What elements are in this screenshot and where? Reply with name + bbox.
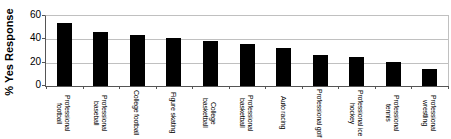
- x-axis-label: Professional tennis: [384, 88, 400, 138]
- bar-slot: [338, 16, 375, 86]
- x-axis-label: Auto racing: [279, 88, 287, 138]
- x-label-slot: Professional tennis: [374, 88, 411, 139]
- bar-slot: [156, 16, 193, 86]
- bar-slot: [83, 16, 120, 86]
- bar-slot: [229, 16, 266, 86]
- x-tick-mark: [448, 86, 449, 89]
- bar: [240, 44, 255, 86]
- bar: [313, 55, 328, 87]
- bar: [130, 35, 145, 86]
- x-axis-label: Figure skating: [169, 88, 177, 138]
- y-axis-ticks: 0204060: [0, 0, 41, 139]
- x-label-slot: College basketball: [191, 88, 228, 139]
- x-axis-label: College basketball: [201, 88, 217, 138]
- x-axis-label: Professional ice hockey: [348, 88, 364, 138]
- bar-slot: [375, 16, 412, 86]
- plot-area: [45, 15, 449, 87]
- x-label-slot: Figure skating: [155, 88, 192, 139]
- x-axis-label: Professional golf: [315, 88, 323, 138]
- bar: [349, 57, 364, 86]
- bar-slot: [119, 16, 156, 86]
- y-tick-label: 20: [0, 57, 41, 67]
- x-label-slot: Professional golf: [301, 88, 338, 139]
- x-label-slot: College football: [118, 88, 155, 139]
- x-axis-label: Professional baseball: [92, 88, 108, 138]
- bar: [386, 62, 401, 87]
- bar-slot: [46, 16, 83, 86]
- bar: [166, 38, 181, 86]
- y-tick-label: 0: [0, 80, 41, 90]
- x-label-slot: Professional wrestling: [410, 88, 447, 139]
- bar-chart: % Yes Response 0204060 Professional foot…: [0, 0, 451, 139]
- bar: [203, 41, 218, 87]
- x-label-slot: Professional football: [45, 88, 82, 139]
- x-axis-label: Professional basketball: [238, 88, 254, 138]
- bar-slot: [265, 16, 302, 86]
- y-tick-label: 60: [0, 10, 41, 20]
- bar: [57, 23, 72, 86]
- bar-slot: [302, 16, 339, 86]
- x-axis-label: Professional football: [55, 88, 71, 138]
- x-label-slot: Professional ice hockey: [337, 88, 374, 139]
- x-axis-labels: Professional footballProfessional baseba…: [45, 88, 447, 139]
- bar: [276, 48, 291, 87]
- x-axis-label: College football: [132, 88, 140, 138]
- bar: [422, 69, 437, 87]
- x-label-slot: Professional baseball: [82, 88, 119, 139]
- x-label-slot: Auto racing: [264, 88, 301, 139]
- y-tick-label: 40: [0, 33, 41, 43]
- bar: [93, 32, 108, 86]
- bars-container: [46, 16, 448, 86]
- bar-slot: [192, 16, 229, 86]
- bar-slot: [411, 16, 448, 86]
- x-label-slot: Professional basketball: [228, 88, 265, 139]
- x-axis-label: Professional wrestling: [421, 88, 437, 138]
